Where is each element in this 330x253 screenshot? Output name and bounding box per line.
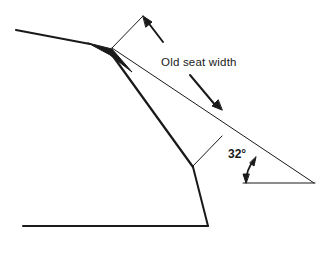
dimension-arrow-bottom-shaft: [190, 75, 216, 106]
angle-arrowhead-bottom-icon: [243, 174, 249, 183]
valve-side-line: [193, 167, 208, 226]
valve-face-line: [110, 52, 193, 167]
head-profile-line: [16, 30, 90, 44]
seat-width-label: Old seat width: [161, 56, 237, 68]
angle-reference-line: [112, 48, 314, 183]
extension-line-top: [112, 16, 143, 48]
angle-label: 32°: [228, 147, 246, 161]
valve-seat-diagram: Old seat width 32°: [0, 0, 330, 253]
extension-line-bottom: [193, 136, 222, 166]
diagram-drawing: [0, 0, 330, 253]
